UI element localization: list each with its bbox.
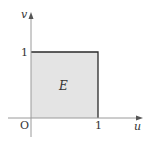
u-axis-label: u <box>134 120 141 133</box>
y-tick-label-1: 1 <box>21 46 28 59</box>
v-axis-arrow-icon <box>29 12 34 19</box>
v-axis-label: v <box>21 8 28 21</box>
origin-label: O <box>20 119 29 132</box>
region-label-e: E <box>58 79 68 93</box>
x-tick-label-1: 1 <box>95 119 102 132</box>
uv-region-diagram: v 1 E O 1 u <box>0 0 150 149</box>
